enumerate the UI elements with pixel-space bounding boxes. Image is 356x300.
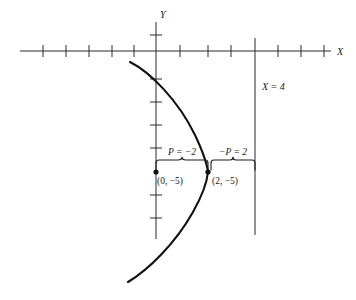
brace-left-label: P = −2 [167,147,196,157]
brace-right-label: −P = 2 [219,147,247,157]
x-axis-label: X [336,46,344,57]
vertical-line-group: X = 4 [255,38,285,235]
x-axis-group: X [20,45,344,57]
brace-right [211,157,255,170]
point-label-origin: (0, −5) [157,176,183,187]
diagram-canvas: X Y X = 4 [0,0,356,300]
parabola-curve [128,62,208,282]
brace-right-group [211,157,255,170]
point-label-vertex: (2, −5) [212,176,238,187]
brace-left [156,157,208,170]
y-axis-group: Y [150,9,167,239]
vertical-line-label: X = 4 [261,81,285,92]
brace-left-group [156,157,208,170]
y-axis-label: Y [160,9,167,20]
parabola-diagram: X Y X = 4 [0,0,356,300]
